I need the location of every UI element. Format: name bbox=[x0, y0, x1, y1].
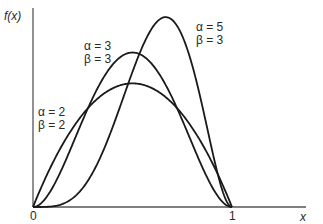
annotation-line2: β = 3 bbox=[196, 34, 223, 47]
annotation-alpha3-beta3: α = 3 β = 3 bbox=[84, 40, 111, 66]
annotation-alpha2-beta2: α = 2 β = 2 bbox=[38, 106, 65, 132]
x-axis-label: x bbox=[300, 211, 306, 224]
y-axis-label: f(x) bbox=[4, 10, 21, 23]
annotation-line2: β = 3 bbox=[84, 53, 111, 66]
x-tick-1: 1 bbox=[229, 210, 236, 223]
x-tick-0: 0 bbox=[30, 210, 37, 223]
y-axis-label-text: f(x) bbox=[4, 9, 21, 23]
annotation-line2: β = 2 bbox=[38, 119, 65, 132]
annotation-alpha5-beta3: α = 5 β = 3 bbox=[196, 21, 223, 47]
